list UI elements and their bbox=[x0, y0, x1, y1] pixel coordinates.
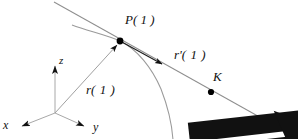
label-point-p: P( 1 ) bbox=[125, 13, 155, 26]
position-vector-symbol: r bbox=[86, 83, 91, 96]
position-vector-arrow bbox=[55, 45, 117, 113]
tangent-vector-arg: ( 1 ) bbox=[182, 47, 206, 62]
label-axis-x: x bbox=[3, 119, 8, 131]
point-p-marker bbox=[117, 38, 124, 45]
axis-x bbox=[22, 113, 55, 126]
position-vector-letter: r bbox=[86, 82, 91, 97]
axis-y bbox=[55, 113, 84, 126]
tangent-vector-letter: r bbox=[174, 47, 179, 62]
label-position-vector: r( 1 ) bbox=[86, 83, 115, 96]
label-tangent-vector: r'( 1 ) bbox=[174, 48, 206, 61]
label-point-k: K bbox=[213, 70, 222, 83]
vector-calculus-figure: P( 1 ) r'( 1 ) r( 1 ) K b x y z bbox=[0, 0, 298, 139]
label-axis-y: y bbox=[93, 121, 98, 133]
label-axis-z: z bbox=[59, 55, 63, 66]
tangent-vector-arrow bbox=[120, 41, 162, 64]
point-k-marker bbox=[208, 89, 214, 95]
tangent-vector-symbol: r bbox=[174, 48, 179, 61]
label-line-b: b bbox=[283, 112, 290, 125]
position-vector-arg: ( 1 ) bbox=[91, 82, 115, 97]
